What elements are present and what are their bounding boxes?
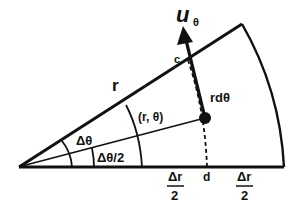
dtheta-label: Δθ: [76, 133, 92, 148]
diagram-canvas: u θ r c rdθ (r, θ) Δθ Δθ/2 d Δr 2 Δr 2: [0, 0, 291, 213]
polar-element-diagram: u θ r c rdθ (r, θ) Δθ Δθ/2 d Δr 2 Δr 2: [0, 0, 291, 213]
dr-right-numerator: Δr: [237, 169, 251, 184]
dr-left-denominator: 2: [171, 188, 178, 203]
rdtheta-label: rdθ: [210, 90, 230, 105]
point-r-theta: [199, 112, 211, 124]
top-radial-line: [19, 24, 242, 167]
point-label: (r, θ): [138, 110, 163, 124]
outer-arc: [242, 24, 284, 167]
dr-right-denominator: 2: [241, 188, 248, 203]
d-label: d: [203, 170, 210, 184]
dtheta-half-label: Δθ/2: [97, 150, 124, 165]
c-label: c: [174, 53, 180, 65]
r-label: r: [112, 76, 119, 95]
u-theta-subscript: θ: [193, 16, 199, 28]
u-theta-label: u: [176, 2, 190, 27]
dtheta-half-arc: [92, 148, 94, 167]
u-theta-vector-shaft: [186, 40, 205, 118]
u-theta-arrowhead: [177, 26, 193, 45]
dr-left-numerator: Δr: [168, 169, 182, 184]
